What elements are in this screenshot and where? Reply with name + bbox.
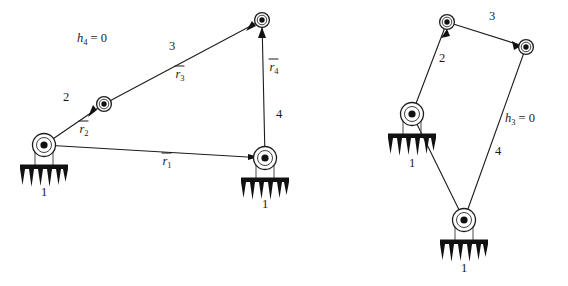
link-number-3-right: 3 [489, 9, 495, 23]
ground-label-1-right: 1 [262, 197, 268, 211]
ground-pivot-lower-right [440, 209, 488, 263]
h3-equals-value: = 0 [519, 111, 535, 125]
figure-canvas: 1 1 2 3 4 h4 = 0 r1 r2 [0, 0, 568, 286]
vector-r2-arrowhead [88, 105, 97, 117]
svg-text:r2: r2 [79, 122, 88, 138]
ground-label-1-left: 1 [41, 185, 47, 199]
ground-label-1-upper-right: 1 [409, 156, 415, 170]
vector-r2-subscript: 2 [84, 128, 88, 138]
link-4-left [262, 20, 265, 158]
svg-text:r3: r3 [175, 67, 184, 83]
link-4-right [464, 47, 526, 220]
link-number-2-left: 2 [63, 90, 69, 104]
h-equals-value: = 0 [91, 31, 107, 45]
svg-text:r1: r1 [162, 154, 171, 170]
four-bar-linkage-left: 1 1 2 3 4 h4 = 0 r1 r2 [20, 13, 289, 211]
link-1-ground-right [412, 114, 464, 220]
link-1-ground-left [44, 145, 265, 158]
condition-label-h3: h3 = 0 [505, 111, 535, 127]
vector-label-r3: r3 [175, 66, 185, 83]
vector-label-r2: r2 [79, 121, 89, 138]
four-bar-linkage-right: 1 1 2 3 4 h3 = 0 [388, 9, 535, 275]
vector-r4-subscript: 4 [274, 66, 279, 76]
moving-joint-b-left [255, 13, 270, 28]
moving-joint-right-right [519, 40, 534, 55]
moving-joint-a-left [97, 97, 112, 112]
link-number-2-right: 2 [439, 51, 445, 65]
moving-joint-top-right [440, 15, 455, 30]
ground-pivot-left [20, 134, 68, 188]
ground-label-1-lower-right: 1 [461, 261, 467, 275]
vector-label-r4: r4 [269, 59, 279, 76]
link-2-right [412, 22, 447, 114]
link-3-left [104, 20, 262, 104]
condition-label-h4: h4 = 0 [77, 31, 107, 47]
vector-r4-arrowhead [258, 27, 266, 38]
kinematic-linkage-figure: 1 1 2 3 4 h4 = 0 r1 r2 [0, 0, 568, 286]
vector-r3-subscript: 3 [180, 73, 184, 83]
vector-r1-subscript: 1 [167, 160, 171, 170]
link-number-4-left: 4 [276, 107, 283, 121]
link-number-4-right: 4 [495, 144, 502, 158]
svg-text:r4: r4 [269, 60, 279, 76]
vector-label-r1: r1 [162, 153, 172, 170]
link-number-3-left: 3 [169, 39, 175, 53]
